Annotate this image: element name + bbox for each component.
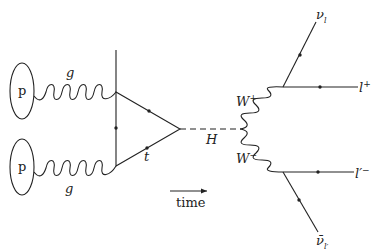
w-minus-label: W− bbox=[236, 151, 257, 165]
higgs-label: H bbox=[206, 133, 217, 146]
proton-label-top: p bbox=[18, 84, 26, 97]
l-plus-label: l+ bbox=[359, 80, 371, 94]
feynman-diagram: p p g g t H W+ W− νl l+ l′− ν̄l′ time bbox=[0, 0, 386, 250]
w-plus-label: W+ bbox=[236, 94, 257, 108]
time-label: time bbox=[176, 196, 205, 209]
gluon-label-top: g bbox=[66, 66, 74, 79]
nu-bar-label: ν̄l′ bbox=[316, 234, 328, 250]
nu-l-label: νl bbox=[316, 8, 326, 25]
proton-label-bottom: p bbox=[18, 160, 26, 173]
gluon-label-bottom: g bbox=[65, 182, 73, 195]
gluon-bottom bbox=[34, 161, 116, 176]
gluon-top bbox=[34, 50, 116, 100]
diagram-lines bbox=[0, 0, 386, 250]
nu-bar-line bbox=[283, 172, 318, 232]
l-prime-minus-label: l′− bbox=[355, 166, 370, 180]
top-quark-label: t bbox=[144, 150, 149, 163]
